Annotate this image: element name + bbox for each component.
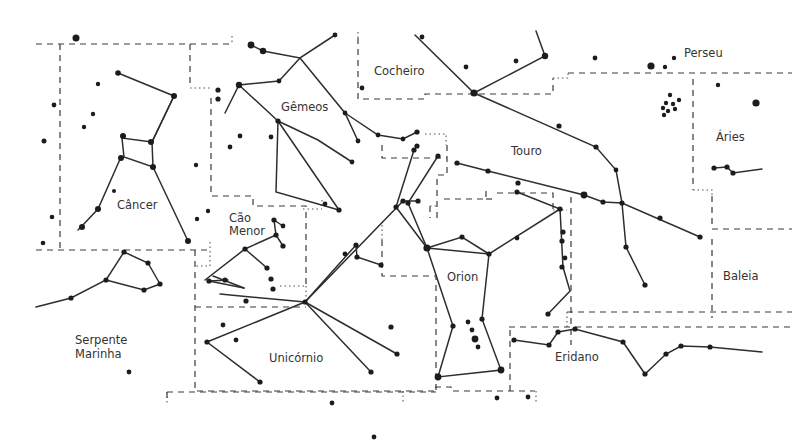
star-dot <box>350 160 355 165</box>
star-dot <box>257 379 262 384</box>
star-dot <box>150 164 156 170</box>
star-dot <box>228 145 233 150</box>
star-dot <box>559 238 564 243</box>
star-dot <box>354 254 359 259</box>
star-dot <box>273 232 278 237</box>
star-dot <box>82 125 86 129</box>
star-dot <box>356 139 361 144</box>
star-dot <box>145 260 150 265</box>
label-serpente-2: Marinha <box>75 347 122 361</box>
star-dot <box>195 217 199 221</box>
star-dot <box>470 89 477 96</box>
star-dot <box>157 281 162 286</box>
star-dot <box>248 42 255 49</box>
star-dot <box>515 236 520 241</box>
star-dot <box>269 135 274 140</box>
star-dot <box>121 249 126 254</box>
star-dot <box>581 192 588 199</box>
star-dot <box>730 170 735 175</box>
star-dot <box>242 246 247 251</box>
star-dot <box>542 53 548 59</box>
star-dot <box>353 242 358 247</box>
star-dot <box>393 204 398 209</box>
star-dot <box>115 70 121 76</box>
star-dot <box>707 344 712 349</box>
star-dot <box>405 200 410 205</box>
star-dot <box>120 133 126 139</box>
star-dot <box>378 262 383 267</box>
star-dot <box>330 401 335 406</box>
star-dot <box>73 35 80 42</box>
star-dot <box>642 371 647 376</box>
star-dot <box>96 82 100 86</box>
star-dot <box>302 299 307 304</box>
star-dot <box>221 323 226 328</box>
star-dot <box>206 278 211 283</box>
star-dot <box>91 112 95 116</box>
star-dot <box>234 338 239 343</box>
star-dot <box>79 224 85 230</box>
star-dot <box>103 277 108 282</box>
star-dot <box>661 106 665 110</box>
star-dot <box>619 200 624 205</box>
star-dot <box>336 207 341 212</box>
star-dot <box>472 336 479 343</box>
star-dot <box>642 282 647 287</box>
star-dot <box>41 241 46 246</box>
star-dot <box>498 367 505 374</box>
star-dot <box>394 351 399 356</box>
star-dot <box>236 82 242 88</box>
star-dot <box>414 129 419 134</box>
star-dot <box>546 342 551 347</box>
star-dot <box>141 287 146 292</box>
star-dot <box>260 48 266 54</box>
star-dot <box>423 244 430 251</box>
star-dot <box>171 93 177 99</box>
star-dot <box>50 215 55 220</box>
star-dot <box>666 109 670 113</box>
label-cao-menor-2: Menor <box>229 224 265 238</box>
star-dot <box>194 163 198 167</box>
star-dot <box>673 107 677 111</box>
star-dot <box>677 98 681 102</box>
star-dot <box>563 256 568 261</box>
star-dot <box>711 165 716 170</box>
star-dot <box>360 86 365 91</box>
star-dot <box>42 139 47 144</box>
star-dot <box>664 101 668 105</box>
star-dot <box>281 224 286 229</box>
star-dot <box>600 199 605 204</box>
star-dot <box>112 189 116 193</box>
star-dot <box>662 113 666 117</box>
star-dot <box>323 202 328 207</box>
star-dot <box>52 103 57 108</box>
star-dot <box>435 153 440 158</box>
star-dot <box>95 206 101 212</box>
star-dot <box>671 102 675 106</box>
star-dot <box>476 345 481 350</box>
star-dot <box>206 209 210 213</box>
star-dot <box>450 323 455 328</box>
star-dot <box>668 93 672 97</box>
star-dot <box>647 62 654 69</box>
star-dot <box>275 118 280 123</box>
star-dot <box>614 168 619 173</box>
star-dot <box>420 35 425 40</box>
star-dot <box>270 286 275 291</box>
star-dot <box>514 189 519 194</box>
star-dot <box>388 324 393 329</box>
star-dot <box>280 243 285 248</box>
star-dot <box>752 99 759 106</box>
star-dot <box>716 83 720 87</box>
star-dot <box>545 311 550 316</box>
star-dot <box>593 56 598 61</box>
star-dot <box>343 111 348 116</box>
star-dot <box>127 370 132 375</box>
label-touro: Touro <box>510 144 542 158</box>
star-dot <box>486 251 491 256</box>
star-dot <box>215 96 220 101</box>
star-dot <box>464 65 469 70</box>
star-dot <box>479 316 484 321</box>
star-dot <box>411 147 416 152</box>
star-dot <box>343 252 348 257</box>
